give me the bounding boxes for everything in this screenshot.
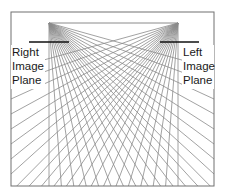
- ray-line: [116, 23, 178, 186]
- right-label-line-1: Right: [12, 46, 40, 58]
- ray-line: [49, 23, 123, 186]
- ray-line: [11, 23, 178, 159]
- ray-line: [49, 23, 99, 186]
- left-label-line-3: Plane: [183, 74, 212, 86]
- right-label-line-2: Image: [12, 60, 44, 72]
- ray-line: [49, 23, 74, 186]
- ray-line: [29, 23, 178, 186]
- ray-line: [66, 23, 178, 186]
- left-label-line-2: Image: [183, 60, 215, 72]
- ray-line: [153, 23, 178, 186]
- ray-line: [49, 23, 61, 186]
- left-label-line-1: Left: [183, 46, 203, 58]
- stereo-ray-diagram: Right Image Plane Left Image Plane: [0, 0, 225, 196]
- right-label-line-3: Plane: [12, 74, 41, 86]
